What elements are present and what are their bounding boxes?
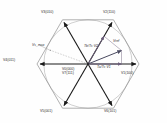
- origin-dot: [87, 63, 89, 65]
- label-v5: V5(001): [40, 110, 52, 114]
- reference-vector-arrow: [88, 51, 122, 65]
- label-component-b: Tb/Ts·V2: [84, 45, 98, 49]
- vs-max-dashed-leader: [50, 50, 89, 64]
- label-v6: V6(101): [104, 110, 116, 114]
- svm-hexagon-figure: V1(100) V2(110) V3(010) V4(011) V5(001) …: [0, 0, 167, 123]
- label-vs-max: Vs_max: [32, 44, 45, 48]
- label-component-a: Ta/Ts·V1: [97, 66, 111, 70]
- label-v4: V4(011): [3, 59, 15, 63]
- vector-v6-arrow: [88, 64, 112, 106]
- label-v7: V7(111): [62, 72, 74, 76]
- label-v2: V2(110): [103, 11, 115, 15]
- label-v3: V3(010): [41, 11, 53, 15]
- component-b-arrow: [88, 36, 104, 64]
- label-reference-vector: Vref: [113, 40, 119, 44]
- svm-diagram-canvas: [0, 0, 167, 123]
- label-v1: V1(100): [121, 72, 133, 76]
